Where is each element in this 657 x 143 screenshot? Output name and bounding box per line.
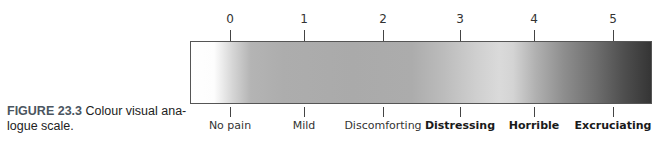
top-tick-4 — [534, 30, 535, 41]
top-tick-0 — [230, 30, 231, 41]
bottom-tick-5 — [613, 107, 614, 117]
top-tick-5 — [613, 30, 614, 41]
bottom-tick-1 — [304, 107, 305, 117]
caption-line-2: logue scale. — [7, 119, 74, 133]
caption-line-1: Colour visual ana- — [86, 104, 187, 118]
tick-number-2: 2 — [368, 12, 398, 26]
tick-number-5: 5 — [598, 12, 628, 26]
descriptor-excruciating: Excruciating — [558, 119, 657, 132]
tick-number-1: 1 — [289, 12, 319, 26]
tick-number-3: 3 — [445, 12, 475, 26]
bottom-tick-3 — [460, 107, 461, 117]
bottom-tick-2 — [383, 107, 384, 117]
figure-label: FIGURE 23.3 — [7, 104, 82, 118]
bottom-tick-0 — [230, 107, 231, 117]
tick-number-0: 0 — [215, 12, 245, 26]
bottom-tick-4 — [534, 107, 535, 117]
gradient-scale-bar — [190, 41, 652, 104]
tick-number-4: 4 — [519, 12, 549, 26]
top-tick-2 — [383, 30, 384, 41]
top-tick-1 — [304, 30, 305, 41]
figure-caption: FIGURE 23.3 Colour visual ana- logue sca… — [7, 104, 187, 134]
top-tick-3 — [460, 30, 461, 41]
